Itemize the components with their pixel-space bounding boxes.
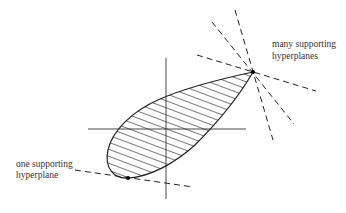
corner-vertex-point [251,70,255,74]
label-one-line2: hyperplane [16,170,58,180]
label-many-line1: many supporting [272,39,336,49]
diagram-canvas: many supporting hyperplanes one supporti… [0,0,346,213]
convex-set-outline [107,72,253,178]
many-supporting-hyperplanes [197,10,316,140]
smooth-boundary-point [126,176,130,180]
hatching [60,0,300,213]
label-many-line2: hyperplanes [272,51,318,61]
label-one-line1: one supporting [16,159,73,169]
